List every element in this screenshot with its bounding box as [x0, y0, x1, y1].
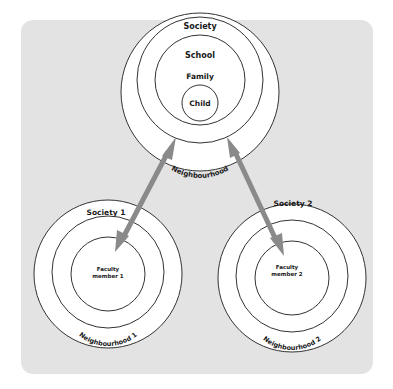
faculty-member-2-line2: member 2: [271, 271, 302, 277]
faculty-member-2-ring: [255, 241, 329, 315]
right-circle-group: Society 2 Faculty member 2 Neighbourhood…: [218, 199, 366, 352]
faculty-member-1-line1: Faculty: [97, 266, 120, 273]
family-label: Family: [186, 72, 214, 81]
ecological-systems-diagram: Society School Family Child Neighbourhoo…: [0, 0, 393, 389]
faculty-member-1-line2: member 1: [92, 273, 123, 279]
society-label: Society: [183, 22, 217, 31]
left-circle-group: Society 1 Faculty member 1 Neighbourhood…: [34, 200, 182, 348]
faculty-member-2-line1: Faculty: [276, 264, 299, 271]
society-2-label: Society 2: [274, 199, 313, 208]
top-circle-group: Society School Family Child Neighbourhoo…: [121, 13, 279, 180]
school-label: School: [185, 51, 215, 60]
society-1-label: Society 1: [87, 208, 126, 217]
child-label: Child: [189, 99, 210, 108]
